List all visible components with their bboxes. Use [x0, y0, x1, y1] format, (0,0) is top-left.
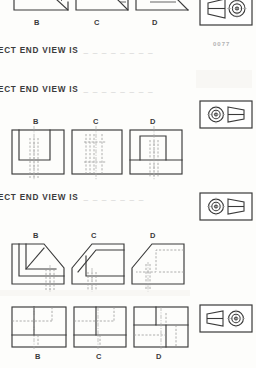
question-2: ECT END VIEW IS_ _ _ _ _ _ _ _	[0, 85, 154, 94]
row-2-figures	[0, 128, 190, 180]
question-3-text: ECT END VIEW IS	[0, 193, 78, 202]
question-3: ECT END VIEW IS_ _ _ _ _ _ _	[0, 193, 145, 202]
row-3-figures	[0, 242, 190, 292]
figure-top-d	[136, 0, 188, 10]
page-number: 0077	[213, 41, 230, 47]
scan-smudge-2	[0, 290, 190, 296]
pictorial-1-figure	[199, 0, 253, 28]
pictorial-3-figure	[199, 192, 253, 222]
question-2-text: ECT END VIEW IS	[0, 85, 78, 94]
pictorial-1	[199, 0, 253, 28]
pictorial-4-figure	[199, 304, 253, 334]
figure-r3-b	[12, 244, 64, 292]
option-row-2	[0, 128, 190, 180]
scan-smudge-1	[196, 70, 252, 88]
question-2-blank: _ _ _ _ _ _ _ _	[83, 85, 153, 94]
worksheet-page: B C D ECT END VIEW IS_ _ _ _ _ _ _ _ ECT…	[0, 0, 256, 368]
question-3-blank: _ _ _ _ _ _ _	[83, 193, 144, 202]
question-1-text: ECT END VIEW IS	[0, 46, 78, 55]
option-label-r3-c: C	[87, 231, 101, 240]
figure-r3-d	[132, 244, 184, 292]
option-label-r4-d: D	[152, 352, 166, 361]
figure-r4-b	[12, 307, 66, 349]
pictorial-3	[199, 192, 253, 222]
option-row-3	[0, 242, 190, 292]
question-1-blank: _ _ _ _ _ _ _ _	[83, 46, 153, 55]
figure-r4-c	[74, 307, 126, 349]
figure-r2-b	[12, 126, 64, 180]
option-label-r2-d: D	[146, 117, 160, 126]
figure-r4-d	[134, 307, 188, 349]
option-label-r4-b: B	[31, 352, 45, 361]
pictorial-2	[199, 100, 253, 130]
option-label-r2-c: C	[89, 117, 103, 126]
option-label-top-b: B	[30, 18, 44, 27]
question-1: ECT END VIEW IS_ _ _ _ _ _ _ _	[0, 46, 154, 55]
figure-r2-c	[72, 126, 122, 180]
figure-r2-d	[130, 126, 182, 180]
option-label-r2-b: B	[29, 117, 43, 126]
pictorial-2-figure	[199, 100, 253, 130]
figure-r3-c	[72, 244, 124, 292]
option-row-4	[0, 305, 190, 349]
option-label-top-d: D	[148, 18, 162, 27]
option-label-r3-b: B	[29, 231, 43, 240]
option-label-top-c: C	[90, 18, 104, 27]
row-4-figures	[0, 305, 190, 349]
option-label-r4-c: C	[92, 352, 106, 361]
figure-top-b	[14, 0, 68, 10]
option-label-r3-d: D	[146, 231, 160, 240]
figure-top-c	[76, 0, 128, 10]
pictorial-4	[199, 304, 253, 334]
